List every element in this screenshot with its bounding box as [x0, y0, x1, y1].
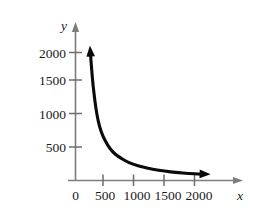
chart-figure: 500 1000 1500 2000 0 500 1000 1500 2000 …: [0, 0, 254, 221]
x-tick-label-0: 0: [72, 188, 79, 203]
chart-canvas: 500 1000 1500 2000 0 500 1000 1500 2000 …: [0, 0, 254, 221]
x-axis-arrowhead: [233, 177, 243, 184]
y-tick-label-500: 500: [46, 140, 67, 155]
y-tick-label-1000: 1000: [39, 107, 66, 122]
x-tick-label-500: 500: [95, 188, 116, 203]
x-tick-label-1000: 1000: [124, 188, 151, 203]
x-tick-label-1500: 1500: [155, 188, 182, 203]
curve-right-arrowhead: [200, 170, 211, 179]
y-tick-label-1500: 1500: [39, 73, 66, 88]
curve-up-arrowhead: [86, 46, 95, 57]
y-axis-arrowhead: [72, 22, 79, 32]
decay-curve: [90, 53, 204, 175]
x-axis-label: x: [236, 188, 243, 203]
x-tick-label-2000: 2000: [186, 188, 213, 203]
y-tick-label-2000: 2000: [39, 46, 66, 61]
y-axis-label: y: [59, 18, 67, 33]
